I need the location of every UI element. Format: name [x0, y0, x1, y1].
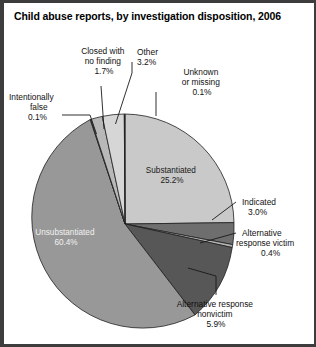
slice-label-closed-with-no-finding: Closed with no finding 1.7% [81, 46, 127, 76]
pie-chart-plot-area: Substantiated 25.2% Unsubstantiated 60.4… [4, 30, 314, 344]
slice-label-alternative-response-victim: Alternative response victim 0.4% [236, 228, 297, 258]
page-title: Child abuse reports, by investigation di… [4, 10, 281, 22]
slice-label-other: Other 3.2% [137, 47, 160, 67]
chart-title-bar: Child abuse reports, by investigation di… [4, 3, 314, 29]
pie-chart-svg: Substantiated 25.2% Unsubstantiated 60.4… [4, 30, 314, 344]
slice-label-unknown-or-missing: Unknown or missing 0.1% [182, 67, 223, 97]
slice-label-indicated: Indicated 3.0% [242, 197, 278, 217]
figure-frame-right [314, 0, 316, 347]
chart-figure: Child abuse reports, by investigation di… [0, 0, 316, 347]
slice-label-intentionally-false: Intentionally false 0.1% [9, 92, 56, 122]
